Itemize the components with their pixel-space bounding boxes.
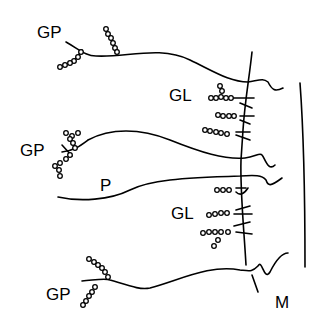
diagram-canvas: [0, 0, 322, 324]
strand-4: [82, 253, 288, 289]
inner-membrane: [241, 52, 258, 292]
label-gp-mid: GP: [20, 142, 45, 159]
label-gl-top: GL: [169, 87, 192, 104]
gp-bottom-chain: [81, 257, 111, 308]
label-m: M: [275, 294, 289, 311]
gp-mid-chain: [53, 131, 81, 179]
label-gl-bottom: GL: [171, 205, 194, 222]
outer-membrane: [300, 83, 305, 267]
gp-top-left-chain: [58, 50, 84, 70]
gl-bottom-beads: [201, 188, 232, 249]
gl-top-beads: [203, 84, 237, 137]
label-gp-top: GP: [37, 24, 62, 41]
gp-top-right-chain: [104, 27, 120, 55]
label-p: P: [100, 177, 111, 194]
label-gp-bottom: GP: [46, 286, 71, 303]
